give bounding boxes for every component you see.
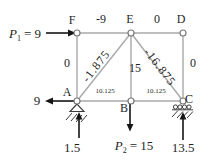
force-label-fa: 0: [64, 57, 70, 69]
load-p2-value: = 15: [130, 138, 154, 153]
node-label-e: E: [126, 13, 133, 25]
load-p2-symbol: P: [115, 138, 123, 153]
load-label-9-at-a: 9: [34, 94, 41, 107]
load-p1-symbol: P: [9, 26, 17, 41]
joint-d-icon: [180, 30, 186, 36]
joint-b-icon: [128, 98, 134, 104]
force-label-bc: 10.125: [146, 88, 165, 95]
arrow-reaction-c-up-icon: [180, 112, 187, 140]
pin-triangle-icon: [70, 104, 84, 112]
joint-e-icon: [128, 30, 134, 36]
force-label-dc: 0: [190, 57, 196, 69]
force-label-eb: 15: [129, 62, 141, 74]
load-p1-value: = 9: [24, 26, 41, 41]
node-label-a: A: [63, 86, 72, 98]
load-p2: P2= 15: [115, 139, 154, 152]
load-p1: P1= 9: [9, 27, 41, 40]
joint-f-icon: [74, 30, 80, 36]
reaction-label-c: 13.5: [172, 141, 195, 154]
node-label-d: D: [177, 13, 186, 25]
node-label-c: C: [185, 93, 193, 105]
load-p1-subscript: 1: [17, 34, 21, 43]
force-label-ab: 10.125: [95, 88, 114, 95]
load-p2-subscript: 2: [123, 146, 127, 155]
reaction-label-a: 1.5: [64, 141, 80, 154]
node-label-f: F: [69, 14, 76, 26]
arrow-p1-right-icon: [46, 30, 76, 37]
force-label-ed: 0: [154, 13, 160, 25]
joint-a-icon: [74, 98, 80, 104]
truss-diagram: F E D A B C -9 0 0 0 15 -1.875 -16.875 1…: [0, 0, 208, 161]
force-label-fe: -9: [96, 13, 106, 25]
node-label-b: B: [120, 102, 128, 114]
ground-hatching-a-icon: [66, 113, 87, 122]
